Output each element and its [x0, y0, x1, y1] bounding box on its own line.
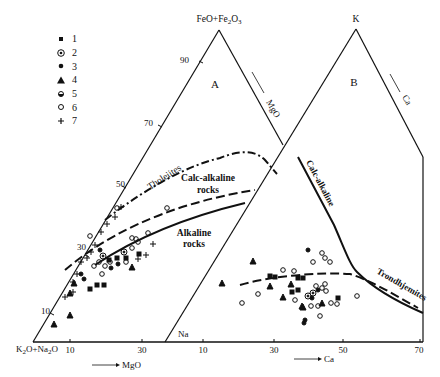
plus-icon	[56, 116, 66, 126]
legend-label: 2	[72, 47, 77, 58]
tick-10: 10	[41, 306, 51, 316]
legend-label: 3	[72, 61, 77, 72]
legend-item-6: 6	[56, 100, 96, 114]
field-calc-alkaline-a-line2: rocks	[197, 185, 219, 195]
filled-square-icon	[56, 34, 66, 44]
bottom-tick-a-10: 10	[66, 345, 76, 355]
side-arrow-b	[390, 74, 400, 92]
left-vertex-label-a: K2O+Na2O	[16, 344, 59, 356]
data-points-b	[219, 248, 359, 325]
legend-item-7: 7	[56, 114, 96, 128]
legend-label: 7	[72, 115, 77, 126]
legend-item-4: 4	[56, 73, 96, 87]
bottom-tick-b-50: 50	[339, 345, 349, 355]
field-alkaline-line2: rocks	[183, 239, 205, 249]
legend-item-2: 2	[56, 46, 96, 60]
field-trondhjemites: Trondhjemites	[375, 266, 429, 303]
panel-label-a: A	[211, 78, 219, 90]
side-arrow-a	[252, 72, 264, 93]
data-points-a	[51, 204, 169, 327]
half-filled-circle-icon	[56, 89, 66, 99]
apex-label-b: K	[353, 14, 360, 24]
circle-dot-icon	[56, 48, 66, 58]
legend-item-1: 1	[56, 32, 96, 46]
tick-30: 30	[77, 242, 87, 252]
legend-item-3: 3	[56, 59, 96, 73]
bottom-tick-a-30: 30	[138, 345, 148, 355]
bottom-arrow-label-a: MgO	[122, 360, 142, 370]
bottom-arrow-label-b: Ca	[324, 354, 334, 364]
legend-label: 5	[72, 88, 77, 99]
legend-item-5: 5	[56, 87, 96, 101]
field-alkaline-line1: Alkaline	[177, 228, 211, 238]
tholeiite-boundary	[105, 152, 277, 220]
open-circle-icon	[56, 102, 66, 112]
field-calc-alkaline-a-line1: Calc-alkaline	[181, 173, 235, 183]
filled-triangle-icon	[56, 75, 66, 85]
filled-circle-icon	[56, 61, 66, 71]
legend-label: 4	[72, 74, 77, 85]
field-tholeiites: Tholeiites	[146, 162, 184, 191]
panel-label-b: B	[350, 76, 357, 88]
left-vertex-label-b: Na	[178, 329, 189, 339]
tick-50: 50	[116, 179, 126, 189]
legend-label: 6	[72, 102, 77, 113]
bottom-tick-b-10: 10	[199, 345, 209, 355]
bottom-tick-b-70: 70	[415, 345, 425, 355]
bottom-arrow-b-head	[318, 357, 322, 361]
side-arrow-label-b: Ca	[400, 93, 414, 107]
tick-70: 70	[144, 118, 154, 128]
bottom-arrow-a-head	[116, 363, 120, 367]
legend: 1 2 3 4 5 6 7	[56, 32, 96, 128]
apex-label-a: FeO+Fe2O3	[196, 14, 242, 26]
bottom-tick-b-30: 30	[270, 345, 280, 355]
tick-90: 90	[180, 55, 190, 65]
legend-label: 1	[72, 33, 77, 44]
